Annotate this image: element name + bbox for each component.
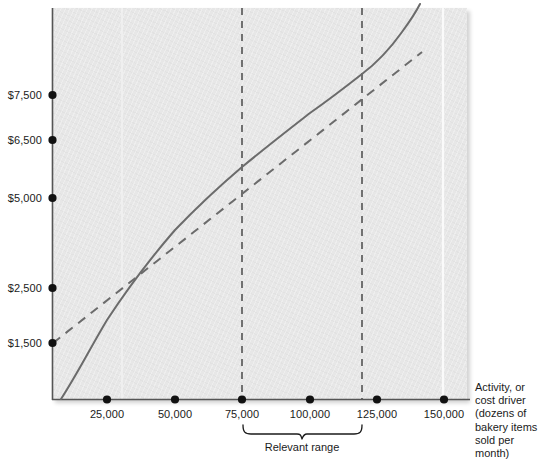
cost-behavior-chart-figure: $7,500 $6,500 $5,000 $2,500 $1,500 25,00… [0,0,542,459]
x-tick-marker-100000 [306,395,314,403]
x-tick-marker-25000 [103,395,111,403]
x-tick-marker-50000 [171,395,179,403]
relevant-range-brace-icon [243,425,362,439]
relevant-range-caption: Relevant range [202,441,402,453]
y-axis-tick-label-6500: $6,500 [0,134,42,146]
x-axis-title-line-2: cost driver [475,394,542,407]
y-axis-tick-label-7500: $7,500 [0,89,42,101]
x-axis-title-line-1: Activity, or [475,381,542,394]
x-tick-marker-75000 [238,395,246,403]
x-axis-title: Activity, or cost driver (dozens of bake… [475,381,542,459]
x-axis-title-line-3: (dozens of [475,407,542,420]
y-axis-tick-label-1500: $1,500 [0,337,42,349]
y-tick-marker-6500 [48,136,56,144]
x-tick-marker-150000 [440,395,448,403]
x-tick-marker-125000 [373,395,381,403]
y-axis-tick-label-5000: $5,000 [0,192,42,204]
cost-approximation-dashed-line [53,52,422,343]
chart-canvas [0,0,542,459]
x-axis-tick-label-150000: 150,000 [402,408,486,420]
x-axis-title-line-5: sold per [475,434,542,447]
y-tick-marker-5000 [48,194,56,202]
y-tick-marker-7500 [48,91,56,99]
y-tick-marker-2500 [48,284,56,292]
x-axis-title-line-6: month) [475,447,542,459]
x-axis-title-line-4: bakery items [475,421,542,434]
y-tick-marker-1500 [48,339,56,347]
actual-total-cost-curve [61,4,420,399]
y-axis-tick-label-2500: $2,500 [0,282,42,294]
